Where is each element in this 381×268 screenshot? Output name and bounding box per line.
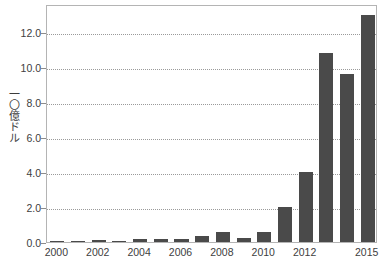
plot-area <box>46 5 377 243</box>
bar <box>92 240 106 242</box>
y-axis-tick-label: 4.0 <box>14 167 41 179</box>
bar <box>174 239 188 243</box>
bar <box>278 207 292 242</box>
bar-series <box>47 6 376 242</box>
bar <box>154 239 168 242</box>
x-axis-tick-label: 2004 <box>127 246 150 258</box>
y-axis-tick-label: 12.0 <box>14 27 41 39</box>
bar <box>216 232 230 243</box>
bar <box>319 53 333 242</box>
x-axis-tick-labels: 20002002200420062008201020122015 <box>46 246 377 266</box>
y-axis-tick-label: 0.0 <box>14 237 41 249</box>
bar <box>237 238 251 242</box>
y-axis-tick-labels: 0.02.04.06.08.010.012.0 <box>14 0 41 268</box>
bar <box>257 232 271 242</box>
bar-chart: 一〇億ドル 0.02.04.06.08.010.012.0 2000200220… <box>0 0 381 268</box>
bar <box>340 74 354 242</box>
x-axis-tick-label: 2000 <box>45 246 68 258</box>
y-axis-tick-label: 2.0 <box>14 202 41 214</box>
x-axis-tick-label: 2010 <box>252 246 275 258</box>
bar <box>133 239 147 243</box>
bar <box>195 236 209 242</box>
bar <box>112 241 126 242</box>
x-axis-tick-label: 2002 <box>86 246 109 258</box>
x-axis-tick-label: 2015 <box>355 246 378 258</box>
y-axis-tick-label: 8.0 <box>14 97 41 109</box>
x-axis-tick-label: 2006 <box>169 246 192 258</box>
bar <box>50 241 64 242</box>
x-axis-tick-label: 2012 <box>293 246 316 258</box>
y-axis-tick-label: 6.0 <box>14 132 41 144</box>
bar <box>71 241 85 242</box>
x-axis-tick-label: 2008 <box>210 246 233 258</box>
y-axis-tick-mark <box>41 243 46 244</box>
bar <box>299 172 313 242</box>
y-axis-tick-label: 10.0 <box>14 62 41 74</box>
bar <box>361 15 375 243</box>
